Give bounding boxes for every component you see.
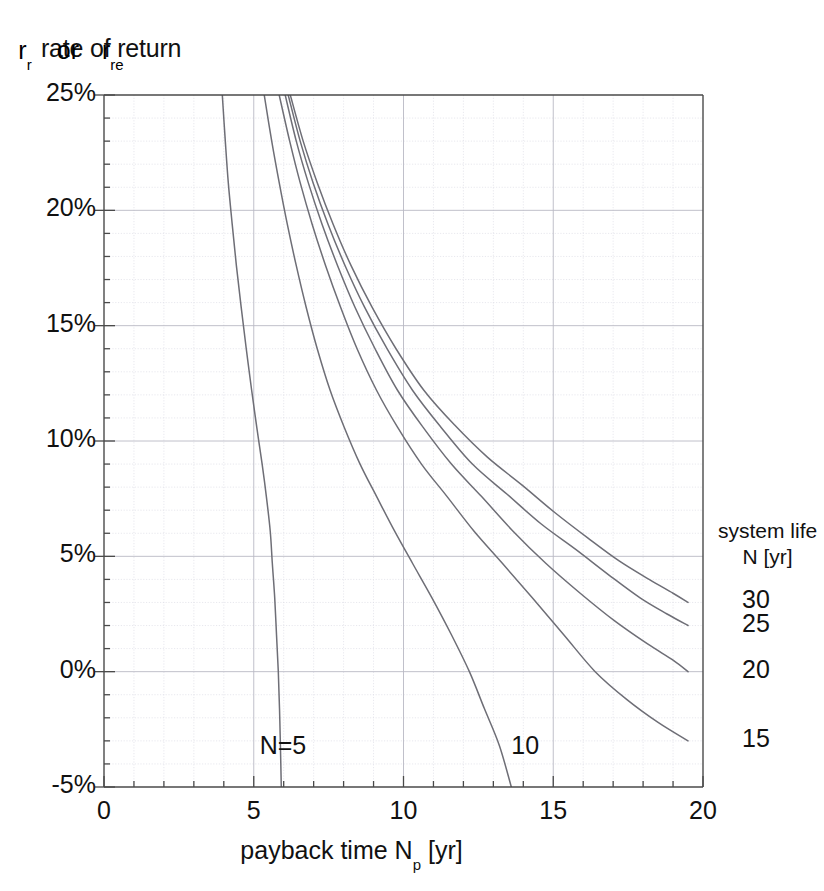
x-axis-tick-label: 20 — [673, 796, 733, 825]
y-axis-tick-label: 20% — [8, 193, 96, 222]
x-axis-tick-label: 0 — [74, 796, 134, 825]
x-axis-tick-label: 15 — [523, 796, 583, 825]
y-axis-tick-label: -5% — [8, 770, 96, 799]
chart-figure: rate of return rr or rre payback time Np… — [0, 0, 824, 891]
x-axis-tick-label: 5 — [224, 796, 284, 825]
plot-canvas — [0, 0, 824, 891]
curve-label-10: 10 — [511, 731, 539, 760]
legend-item-N25: 25 — [742, 609, 770, 638]
y-axis-tick-label: 5% — [8, 539, 96, 568]
y-axis-tick-label: 25% — [8, 78, 96, 107]
series-line-N25 — [288, 95, 688, 626]
y-axis-tick-label: 10% — [8, 424, 96, 453]
y-axis-tick-label: 15% — [8, 309, 96, 338]
curve-label-N5: N=5 — [260, 731, 307, 760]
y-axis-tick-label: 0% — [8, 655, 96, 684]
series-line-N20 — [285, 95, 688, 672]
x-axis-tick-label: 10 — [374, 796, 434, 825]
legend-item-N15: 15 — [742, 724, 770, 753]
legend-item-N20: 20 — [742, 655, 770, 684]
